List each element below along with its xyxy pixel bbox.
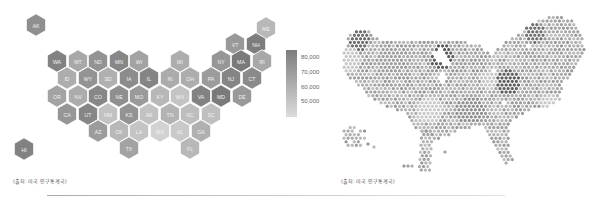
county-hex-cell [455,97,458,101]
county-hex-cell [441,122,444,126]
county-hex-cell [541,19,544,23]
county-hex-cell [459,55,462,59]
county-hex-cell [509,97,512,101]
county-hex-cell [445,80,448,84]
county-hex-cell [425,154,428,158]
county-hex-cell [367,37,370,41]
county-hex-cell [548,58,551,62]
county-hex-cell [468,119,471,123]
county-hex-cell [429,147,432,151]
county-hex-cell [396,66,399,70]
state-hex-mo: MO [129,85,148,107]
county-hex-cell [531,58,534,62]
county-hex-cell [554,97,557,101]
county-hex-cell [457,51,460,55]
county-hex-cell [425,147,428,151]
county-hex-cell [412,80,415,84]
county-hex-cell [418,105,421,109]
county-hex-cell [507,101,510,105]
county-hex-cell [470,87,473,91]
county-hex-cell [492,90,495,94]
county-hex-cell [371,80,374,84]
state-abbr-label: VT [232,42,239,48]
county-hex-cell [425,73,428,77]
county-hex-cell [404,44,407,48]
state-hex-ne: NE [109,85,128,107]
county-hex-cell [580,37,583,41]
county-hex-cell [507,108,510,112]
county-hex-cell [503,144,506,148]
county-hex-cell [369,41,372,45]
county-hex-cell [500,154,503,158]
county-hex-cell [558,62,561,65]
county-hex-cell [398,62,401,65]
county-hex-cell [398,105,401,109]
county-hex-cell [529,48,532,52]
county-hex-cell [421,66,424,70]
county-hex-cell [535,87,538,91]
county-hex-cell [392,66,395,70]
county-hex-cell [457,66,460,70]
county-hex-cell [470,58,473,62]
county-hex-cell [439,126,442,130]
county-hex-cell [474,44,477,48]
county-hex-cell [369,62,372,65]
county-hex-cell [546,41,549,45]
county-hex-cell [472,119,475,123]
county-hex-cell [488,83,491,87]
county-hex-cell [347,144,350,148]
county-hex-cell [546,76,549,80]
county-hex-cell [539,87,542,91]
county-hex-cell [544,23,547,27]
county-hex-cell [490,73,493,77]
county-hex-cell [416,94,419,98]
county-hex-cell [539,51,542,55]
state-abbr-label: TN [167,112,174,118]
county-hex-cell [511,37,514,41]
county-hex-cell [380,80,383,84]
county-hex-cell [507,129,510,133]
county-hex-cell [482,51,485,55]
county-hex-cell [459,119,462,123]
county-hex-cell [392,80,395,84]
county-hex-cell [426,165,429,169]
county-hex-cell [574,62,577,65]
county-hex-cell [576,51,579,55]
county-hex-cell [459,90,462,94]
county-hex-cell [453,87,456,91]
county-hex-cell [468,112,471,116]
county-hex-cell [457,122,460,126]
county-hex-cell [511,73,514,77]
county-hex-cell [435,62,438,65]
county-hex-cell [414,97,417,101]
county-hex-cell [548,80,551,84]
county-hex-cell [427,158,430,162]
county-hex-cell [435,48,438,52]
county-hex-cell [421,44,424,48]
county-hex-cell [519,51,522,55]
county-hex-cell [550,34,553,38]
county-hex-cell [398,97,401,101]
county-hex-cell [369,48,372,52]
county-hex-cell [552,44,555,48]
county-hex-cell [437,101,440,105]
county-hex-cell [496,62,499,65]
county-hex-cell [443,83,446,87]
county-hex-cell [377,41,380,45]
county-hex-cell [562,62,565,65]
county-hex-cell [568,51,571,55]
county-hex-cell [445,122,448,126]
state-abbr-label: AL [177,129,183,135]
county-hex-cell [550,69,553,73]
county-hex-cell [453,115,456,119]
county-hex-cell [556,51,559,55]
county-hex-cell [548,37,551,41]
county-hex-cell [498,51,501,55]
county-hex-cell [521,83,524,87]
county-hex-cell [421,58,424,62]
county-hex-cell [412,101,415,105]
county-hex-cell [494,122,497,126]
county-hex-cell [523,94,526,98]
county-hex-cell [539,44,542,48]
county-hex-cell [494,58,497,62]
